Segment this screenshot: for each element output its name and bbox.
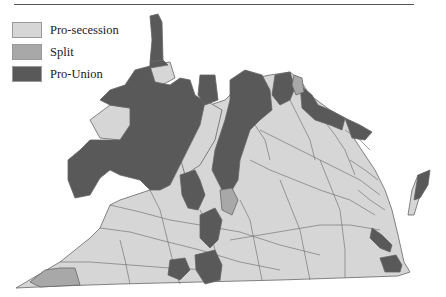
virginia-county-map bbox=[0, 0, 446, 297]
